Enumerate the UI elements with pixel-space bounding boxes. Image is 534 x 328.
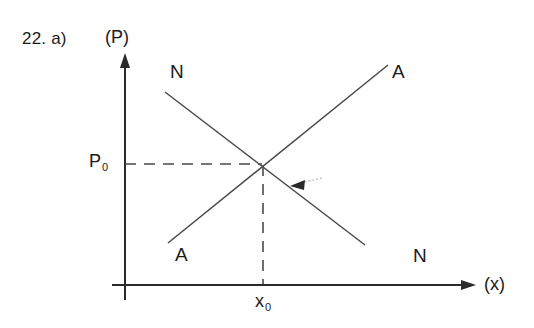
x-axis-arrowhead-icon	[461, 280, 476, 290]
equilibrium-quantity-symbol: x	[255, 291, 264, 311]
demand-curve-label-bottom: N	[413, 246, 427, 265]
demand-curve-label-top: N	[170, 62, 184, 81]
equilibrium-price-symbol: P	[89, 151, 101, 171]
equilibrium-price-label: P0	[89, 152, 107, 170]
supply-curve-label-bottom: A	[175, 245, 188, 264]
equilibrium-quantity-subscript: 0	[265, 301, 271, 313]
y-axis-label: (P)	[105, 28, 129, 46]
y-axis-arrowhead-icon	[120, 53, 130, 68]
equilibrium-price-subscript: 0	[102, 161, 108, 173]
supply-curve-label-top: A	[392, 62, 405, 81]
equilibrium-quantity-label: x0	[255, 292, 270, 310]
economics-supply-demand-figure: 22. a) (P) (x) N N A A P0 x0	[0, 0, 534, 328]
figure-canvas	[0, 0, 534, 328]
supply-curve-a-line	[168, 65, 388, 243]
problem-number-label: 22. a)	[22, 30, 67, 47]
x-axis-label: (x)	[484, 275, 505, 293]
